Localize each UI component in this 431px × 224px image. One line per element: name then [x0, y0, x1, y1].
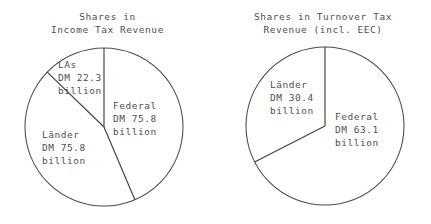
slice-label-federal: Federal DM 75.8 billion	[113, 99, 157, 139]
slice-label-laender: Länder DM 75.8 billion	[42, 128, 86, 168]
pie-chart-income-tax: Shares in Income Tax Revenue LAs DM 22.3…	[0, 0, 215, 224]
pie-svg-turnover-tax	[215, 0, 431, 224]
slice-label-las: LAs DM 22.3 billion	[58, 58, 102, 98]
figure-container: Shares in Income Tax Revenue LAs DM 22.3…	[0, 0, 431, 224]
slice-label-laender: Länder DM 30.4 billion	[270, 78, 314, 118]
slice-label-federal: Federal DM 63.1 billion	[335, 110, 379, 150]
pie-chart-turnover-tax: Shares in Turnover Tax Revenue (incl. EE…	[215, 0, 431, 224]
pie-svg-income-tax	[0, 0, 215, 224]
